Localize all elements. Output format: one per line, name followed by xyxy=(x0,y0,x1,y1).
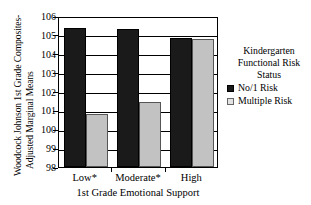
legend-item-multiple-risk[interactable]: Multiple Risk xyxy=(227,95,311,107)
y-tick-label: 104 xyxy=(41,50,56,60)
legend-swatch-icon xyxy=(227,85,234,92)
x-axis-title: 1st Grade Emotional Support xyxy=(58,188,218,199)
y-tick-label: 102 xyxy=(41,88,56,98)
legend-title-line: Kindergarten xyxy=(227,45,311,57)
y-tick-label: 100 xyxy=(41,125,56,135)
y-tick-label: 106 xyxy=(41,12,56,22)
bar-multiple-risk-low xyxy=(86,114,108,167)
legend-item-label: No/1 Risk xyxy=(238,82,278,94)
legend-title-line: Functional Risk xyxy=(227,57,311,69)
y-tick-label: 99 xyxy=(46,144,56,154)
plot-area xyxy=(58,17,218,168)
bar-multiple-risk-moderate xyxy=(139,102,161,167)
chart-legend: KindergartenFunctional RiskStatus No/1 R… xyxy=(227,45,311,107)
legend-swatch-icon xyxy=(227,98,234,105)
y-axis-title: Woodcock Johnson 1st Grade Composites- A… xyxy=(0,0,30,180)
x-tick-label: High xyxy=(151,173,231,184)
bar-chart-figure: Woodcock Johnson 1st Grade Composites- A… xyxy=(0,0,311,205)
y-axis-title-line-1: Woodcock Johnson 1st Grade Composites- xyxy=(13,15,23,176)
legend-title-line: Status xyxy=(227,69,311,81)
bar-no-1-risk-moderate xyxy=(117,29,139,167)
x-tick-mark xyxy=(111,168,112,172)
y-axis-title-line-2: Adjusted Marginal Means xyxy=(25,71,35,169)
bar-no-1-risk-low xyxy=(64,28,86,167)
bar-multiple-risk-high xyxy=(192,39,214,167)
x-tick-mark xyxy=(165,168,166,172)
y-tick-label: 98 xyxy=(46,163,56,173)
legend-item-no-1-risk[interactable]: No/1 Risk xyxy=(227,82,311,94)
legend-entries: No/1 RiskMultiple Risk xyxy=(227,82,311,107)
y-tick-label: 101 xyxy=(41,106,56,116)
bar-no-1-risk-high xyxy=(170,38,192,167)
y-tick-label: 105 xyxy=(41,31,56,41)
legend-item-label: Multiple Risk xyxy=(238,95,292,107)
y-tick-label: 103 xyxy=(41,69,56,79)
legend-title: KindergartenFunctional RiskStatus xyxy=(227,45,311,81)
